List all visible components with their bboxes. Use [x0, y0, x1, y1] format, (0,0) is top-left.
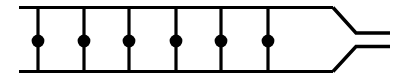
- node-dot-6: [262, 35, 275, 48]
- ladder-taper-diagram: [0, 0, 408, 84]
- lower-taper-lead: [333, 47, 390, 72]
- taper-group: [333, 8, 390, 72]
- node-dot-2: [78, 35, 91, 48]
- node-dot-4: [170, 35, 183, 48]
- rungs-group: [38, 8, 268, 72]
- upper-taper-lead: [333, 8, 390, 34]
- node-dot-5: [215, 35, 228, 48]
- node-dot-3: [123, 35, 136, 48]
- nodes-group: [32, 35, 275, 48]
- node-dot-1: [32, 35, 45, 48]
- diagram-canvas: [0, 0, 408, 84]
